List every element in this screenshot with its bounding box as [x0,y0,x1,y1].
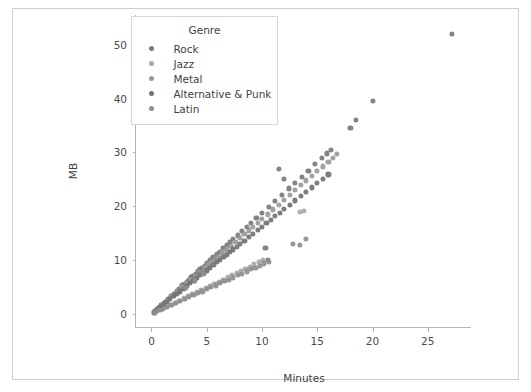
scatter-point [276,166,281,171]
scatter-point [312,162,317,167]
scatter-point [297,242,302,247]
x-axis-tick [207,328,208,332]
scatter-point [268,217,273,222]
scatter-point [335,151,340,156]
y-axis-tick-label: 10 [114,254,127,266]
legend-item[interactable]: Latin [141,101,268,116]
scatter-point [328,148,333,153]
scatter-point [282,206,287,211]
legend-item[interactable]: Metal [141,71,268,86]
y-axis-tick-label: 30 [114,146,127,158]
scatter-point [287,202,292,207]
legend-marker-icon [149,46,154,51]
scatter-point [277,210,282,215]
x-axis-tick [151,328,152,332]
x-axis-tick-label: 0 [148,335,155,347]
y-axis-tick-label: 20 [114,200,127,212]
scatter-point [370,99,375,104]
legend-item-label: Alternative & Punk [173,88,271,100]
legend-box[interactable]: Genre RockJazzMetalAlternative & PunkLat… [131,16,278,125]
scatter-point [320,164,325,169]
legend-marker-icon [149,61,154,66]
legend-item[interactable]: Rock [141,41,268,56]
scatter-point [259,210,264,215]
y-axis-tick [133,260,137,261]
legend-item-label: Latin [173,103,199,115]
scatter-point [287,192,292,197]
scatter-point [309,173,314,178]
figure-canvas: 051015202501020304050 Minutes MB Genre R… [0,0,531,392]
scatter-point [183,285,188,290]
scatter-point [293,180,298,185]
scatter-point [201,272,206,277]
scatter-point [304,189,309,194]
scatter-point [330,155,335,160]
legend-marker-icon [149,91,154,96]
x-axis-tick-label: 15 [311,335,324,347]
scatter-point [192,278,197,283]
scatter-point [348,126,353,131]
scatter-point [309,185,314,190]
legend-item-label: Metal [173,73,202,85]
x-axis-tick [428,328,429,332]
scatter-point [319,156,324,161]
scatter-point [270,207,275,212]
legend-title: Genre [141,24,268,36]
y-axis-tick [133,314,137,315]
y-axis-tick [133,152,137,153]
scatter-point [315,180,320,185]
legend-item-label: Jazz [173,58,194,70]
x-axis-tick-label: 10 [255,335,268,347]
x-axis-label: Minutes [136,372,472,384]
x-axis-tick-label: 5 [203,335,210,347]
scatter-point [293,198,298,203]
legend-item[interactable]: Alternative & Punk [141,86,268,101]
scatter-point [276,202,281,207]
y-axis-label: MB [67,163,79,179]
y-axis-tick-label: 50 [114,39,127,51]
scatter-point [320,176,325,181]
legend-item[interactable]: Jazz [141,56,268,71]
scatter-point [251,231,256,236]
scatter-point [265,212,270,217]
scatter-point [304,236,309,241]
scatter-point [286,186,291,191]
scatter-point [282,177,287,182]
x-axis-tick [262,328,263,332]
scatter-point [259,224,264,229]
scatter-point [315,169,320,174]
scatter-point [353,117,358,122]
x-axis-tick-label: 25 [421,335,434,347]
scatter-point [290,241,295,246]
legend-item-label: Rock [173,43,198,55]
legend-marker-icon [149,76,154,81]
scatter-point [263,245,268,250]
scatter-point [266,259,271,264]
scatter-point [293,187,298,192]
scatter-point [301,209,306,214]
legend-entries: RockJazzMetalAlternative & PunkLatin [141,41,268,116]
y-axis-tick [133,206,137,207]
scatter-point [282,197,287,202]
scatter-point [298,193,303,198]
scatter-point [326,172,331,177]
scatter-point [242,238,247,243]
x-axis-tick-label: 20 [366,335,379,347]
scatter-point [304,178,309,183]
y-axis-tick-label: 0 [120,308,127,320]
scatter-point [450,31,455,36]
scatter-point [326,159,331,164]
scatter-point [306,168,311,173]
x-axis-tick [373,328,374,332]
y-axis-tick-label: 40 [114,93,127,105]
scatter-point [298,183,303,188]
legend-marker-icon [149,106,154,111]
x-axis-tick [317,328,318,332]
